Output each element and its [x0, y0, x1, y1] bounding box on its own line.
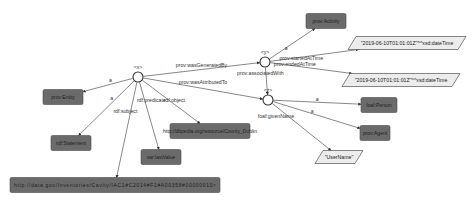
- blank-node-label: <x>: [134, 64, 142, 70]
- resource-node-label: rdf:Statement: [56, 140, 87, 146]
- edge-label: foaf:givenName: [258, 113, 294, 119]
- literal-node-username[interactable]: "UserName": [315, 151, 363, 164]
- blank-node-z[interactable]: <z>: [263, 87, 273, 105]
- edge-line: [117, 82, 137, 177]
- edge-label: a: [109, 77, 112, 83]
- blank-node-label: <z>: [264, 87, 272, 93]
- blank-node-circle[interactable]: [260, 57, 270, 67]
- edge-label: a: [316, 96, 319, 102]
- blank-node-x[interactable]: <x>: [133, 64, 143, 82]
- resource-node-label: prov:Agent: [363, 130, 388, 136]
- resource-node-prov-agent[interactable]: prov:Agent: [360, 126, 390, 141]
- resource-node-label: http://dbpedia.org/resource/County_Dubli…: [163, 128, 257, 134]
- resource-node-label: foaf:Person: [366, 102, 392, 108]
- literal-node-start-time[interactable]: "2019-06-10T01:01:01Z"^^xsd:dateTime: [348, 37, 466, 50]
- edge-label: rdf:subject: [113, 108, 137, 114]
- resource-node-prov-entity[interactable]: prov:Entity: [43, 90, 83, 105]
- edge-label: prov:wasGeneratedBy: [176, 62, 228, 68]
- resource-node-rdf-statement[interactable]: rdf:Statement: [51, 136, 91, 151]
- literal-node-end-time[interactable]: "2019-06-10T01:01:01Z"^^xsd:dateTime: [342, 74, 460, 87]
- edge-x-z: prov:wasAttributedTo: [143, 78, 262, 99]
- resource-node-subject-uri[interactable]: http://data.gov/Inventories/Cavity/IAC1#…: [10, 178, 220, 193]
- edge-label: rdf:predicate: [137, 97, 166, 103]
- literal-node-label: "UserName": [325, 154, 354, 160]
- edge-label: prov:associatedWith: [237, 70, 284, 76]
- resource-node-foaf-person[interactable]: foaf:Person: [361, 98, 397, 113]
- blank-node-circle[interactable]: [263, 95, 273, 105]
- edge-y-z: prov:associatedWith: [237, 67, 284, 94]
- edge-z-foaf_person: a: [273, 96, 361, 104]
- edge-line: [140, 82, 159, 149]
- literal-node-label: "2019-06-10T01:01:01Z"^^xsd:dateTime: [361, 40, 454, 46]
- resource-node-label: prov:Activity: [313, 18, 340, 24]
- blank-node-label: <y>: [261, 49, 269, 55]
- resource-node-prov-activity[interactable]: prov:Activity: [306, 14, 346, 29]
- resource-node-label: var:lastValue: [147, 154, 176, 160]
- edge-label: a: [311, 108, 314, 114]
- resource-node-label: http://data.gov/Inventories/Cavity/IAC1#…: [14, 182, 216, 188]
- edge-x-subject_uri: rdf:subject: [113, 82, 137, 177]
- blank-node-circle[interactable]: [133, 72, 143, 82]
- edge-label: prov:wasAttributedTo: [179, 79, 228, 85]
- resource-node-label: prov:Entity: [51, 94, 75, 100]
- literal-node-label: "2019-06-10T01:01:01Z"^^xsd:dateTime: [355, 77, 448, 83]
- resource-node-var-lastvalue[interactable]: var:lastValue: [141, 150, 181, 165]
- blank-node-y[interactable]: <y>: [260, 49, 270, 67]
- edge-y-start_time: prov:startedAtTime: [270, 50, 358, 62]
- edge-x-var_lastvalue: rdf:predicate: [137, 82, 166, 149]
- edge-label: prov:endedAtTime: [274, 61, 316, 67]
- provenance-graph: aardf:subjectrdf:predicaterdf:objectprov…: [0, 0, 476, 205]
- edge-label: rdf:object: [164, 97, 186, 103]
- edge-label: a: [285, 45, 288, 51]
- edge-label: a: [110, 95, 113, 101]
- resource-node-object-uri[interactable]: http://dbpedia.org/resource/County_Dubli…: [163, 124, 257, 139]
- edge-z-username: foaf:givenName: [258, 103, 331, 150]
